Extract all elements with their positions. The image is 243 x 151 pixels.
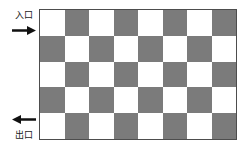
grid-cell [65,113,90,139]
grid-cell [40,36,65,62]
grid-cell [40,113,65,139]
grid-cell [114,113,139,139]
grid-cell [187,87,212,113]
grid-cell [212,87,237,113]
grid-cell [163,87,188,113]
grid-cell [114,62,139,88]
grid-cell [187,10,212,36]
grid-cell [163,62,188,88]
grid-cell [114,36,139,62]
grid-cell [89,113,114,139]
grid-cell [163,10,188,36]
checkerboard-maze-figure: 入口 出口 [0,0,243,151]
grid-cell [212,36,237,62]
grid-cell [65,87,90,113]
grid-cell [89,10,114,36]
grid-cell [138,36,163,62]
grid-cell [65,10,90,36]
grid-cell [89,36,114,62]
exit-arrow-left-icon [11,110,37,129]
grid-cell [187,113,212,139]
grid-cell [187,36,212,62]
entrance-marker: 入口 [6,10,42,40]
grid-cell [114,87,139,113]
exit-marker: 出口 [6,110,42,140]
grid-cell [163,36,188,62]
entrance-label: 入口 [15,10,33,20]
checkerboard-grid [39,9,237,140]
grid-cell [40,10,65,36]
grid-cell [187,62,212,88]
grid-cell [138,62,163,88]
grid-cell [114,10,139,36]
grid-cell [163,113,188,139]
grid-cell [89,62,114,88]
grid-cell [40,87,65,113]
grid-cell [89,87,114,113]
grid-cell [138,87,163,113]
grid-cell [65,36,90,62]
grid-cell [65,62,90,88]
grid-cell [212,62,237,88]
grid-cell [138,113,163,139]
grid-cell [212,113,237,139]
exit-label: 出口 [15,130,33,140]
grid-cell [138,10,163,36]
grid-cell [212,10,237,36]
grid-cell [40,62,65,88]
entrance-arrow-right-icon [11,21,37,40]
